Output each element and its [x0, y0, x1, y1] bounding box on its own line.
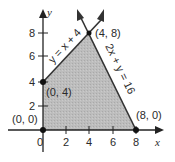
tick-y-2: 2	[29, 100, 35, 112]
tick-x-0: 0	[37, 136, 43, 148]
arrow-icon	[77, 9, 84, 21]
tick-x-4: 4	[86, 136, 92, 148]
tick-x-2: 2	[63, 136, 69, 148]
vertex-label-0-4: (0, 4)	[46, 86, 72, 98]
feasible-region-diagram: 0 2 4 6 8 x 2 4 6 8 y (0, 0) (0, 4) (4, …	[0, 0, 175, 162]
tick-x-6: 6	[110, 136, 116, 148]
y-axis-label: y	[46, 6, 52, 18]
y-axis-arrow-icon	[39, 9, 47, 18]
tick-y-6: 6	[29, 50, 35, 62]
vertex-0-4	[40, 79, 46, 85]
tick-y-4: 4	[29, 76, 35, 88]
vertex-label-4-8: (4, 8)	[95, 27, 121, 39]
tick-y-8: 8	[29, 27, 35, 39]
tick-x-8: 8	[133, 136, 139, 148]
vertex-8-0	[133, 127, 139, 133]
vertex-label-8-0: (8, 0)	[136, 109, 162, 121]
vertex-0-0	[40, 127, 46, 133]
arrow-icon	[97, 9, 104, 22]
x-axis-label: x	[154, 136, 160, 148]
x-axis-arrow-icon	[155, 126, 164, 134]
vertex-label-0-0: (0, 0)	[12, 113, 38, 125]
vertex-4-8	[87, 31, 92, 36]
